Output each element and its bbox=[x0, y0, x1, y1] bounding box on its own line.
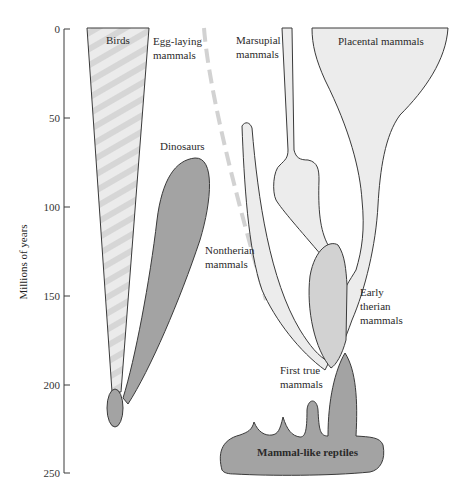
tick-150: 150 bbox=[44, 290, 61, 302]
tick-250: 250 bbox=[44, 467, 61, 479]
time-axis: 0 50 100 150 200 250 Millions of years bbox=[17, 23, 70, 479]
label-nontherian-1: Nontherian bbox=[205, 244, 255, 256]
label-nontherian-2: mammals bbox=[205, 258, 248, 270]
therian-tree bbox=[242, 28, 448, 370]
label-first-true-1: First true bbox=[280, 364, 320, 376]
label-early-therian-3: mammals bbox=[360, 314, 403, 326]
label-marsupial-2: mammals bbox=[236, 48, 279, 60]
label-early-therian-1: Early bbox=[360, 286, 384, 298]
tick-200: 200 bbox=[44, 379, 61, 391]
label-dinosaurs: Dinosaurs bbox=[160, 140, 205, 152]
tick-50: 50 bbox=[49, 112, 61, 124]
label-egg-laying-2: mammals bbox=[153, 49, 196, 61]
label-placental: Placental mammals bbox=[338, 35, 424, 47]
label-mammal-like-reptiles: Mammal-like reptiles bbox=[257, 446, 359, 458]
tick-100: 100 bbox=[44, 201, 61, 213]
tick-0: 0 bbox=[55, 23, 61, 35]
evolution-diagram: 0 50 100 150 200 250 Millions of years B… bbox=[0, 0, 460, 502]
axis-title: Millions of years bbox=[17, 224, 29, 299]
label-birds: Birds bbox=[106, 34, 130, 46]
label-egg-laying-1: Egg-laying bbox=[153, 35, 202, 47]
label-marsupial-1: Marsupial bbox=[236, 34, 281, 46]
label-early-therian-2: therian bbox=[360, 300, 391, 312]
bird-origin-shape bbox=[107, 389, 123, 427]
label-first-true-2: mammals bbox=[280, 378, 323, 390]
